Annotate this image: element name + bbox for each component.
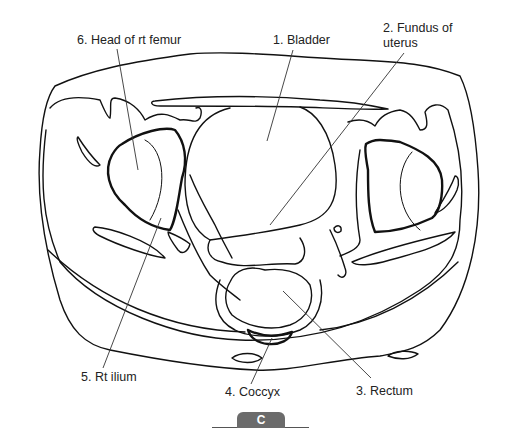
anterior-wall-strip: [152, 97, 388, 110]
inner-muscle-contour: [43, 98, 462, 341]
lt-ischium-shape: [352, 232, 455, 265]
leader-4: [251, 338, 272, 384]
posterior-skin-bump-right: [388, 351, 418, 359]
label-fundus-of-uterus-line2: uterus: [383, 36, 418, 51]
leader-5: [103, 218, 161, 368]
vessel-small: [334, 226, 341, 233]
leader-3: [283, 291, 371, 378]
pelvis-cross-section-diagram: [0, 0, 517, 438]
leader-1: [267, 50, 293, 141]
lt-acetabulum-arc: [400, 152, 420, 230]
lt-femur-head-outline: [365, 140, 442, 232]
label-rt-ilium: 5. Rt ilium: [81, 370, 137, 385]
rt-femur-head-outline: [108, 129, 185, 230]
label-rectum: 3. Rectum: [356, 384, 413, 399]
rt-pubic-ramus: [168, 232, 190, 252]
label-bladder: 1. Bladder: [273, 33, 330, 48]
label-fundus-of-uterus-line1: 2. Fundus of: [383, 21, 453, 36]
lt-sliver: [435, 176, 458, 213]
outer-body-contour: [39, 53, 479, 370]
leader-6: [117, 49, 138, 170]
rt-sliver: [77, 137, 100, 166]
posterior-skin-bump: [232, 354, 262, 363]
rt-acetabulum-arc: [145, 140, 162, 220]
lt-ilium-line: [340, 150, 360, 256]
panel-label-tab: C: [237, 412, 285, 428]
rt-sacral-wing: [190, 175, 232, 258]
lower-fat-line: [48, 250, 458, 332]
lt-sacral-wing: [330, 230, 346, 277]
uterus-outline: [208, 238, 305, 266]
rt-ischium-shape: [93, 227, 165, 258]
label-head-of-rt-femur: 6. Head of rt femur: [77, 33, 181, 48]
label-coccyx: 4. Coccyx: [225, 385, 280, 400]
bladder-outline: [185, 107, 336, 240]
